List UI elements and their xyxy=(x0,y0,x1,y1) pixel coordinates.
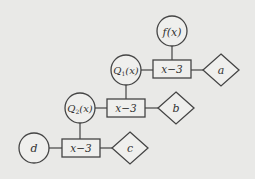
node-c-label: c xyxy=(127,142,133,155)
node-fx-label: f(x) xyxy=(162,26,182,39)
node-b-label: b xyxy=(172,102,179,115)
node-q1-label: Q1(x) xyxy=(113,65,139,77)
node-q2-label: Q2(x) xyxy=(67,103,93,115)
node-box2-label: x−3 xyxy=(115,102,137,114)
node-d: d xyxy=(19,133,49,163)
node-a-label: a xyxy=(218,64,225,77)
synthetic-division-diagram: f(x) Q1(x) x−3 a Q2(x) x−3 xyxy=(0,0,255,179)
node-d-label: d xyxy=(30,142,37,155)
node-fx: f(x) xyxy=(157,16,187,46)
node-box3-label: x−3 xyxy=(70,142,92,154)
node-box1-label: x−3 xyxy=(161,63,183,75)
node-box2: x−3 xyxy=(107,99,145,117)
node-box1: x−3 xyxy=(153,60,191,78)
node-c: c xyxy=(112,132,148,164)
node-q2: Q2(x) xyxy=(65,93,95,123)
node-q1: Q1(x) xyxy=(111,55,141,85)
node-a: a xyxy=(203,54,239,86)
node-b: b xyxy=(158,92,194,124)
node-box3: x−3 xyxy=(62,139,100,157)
